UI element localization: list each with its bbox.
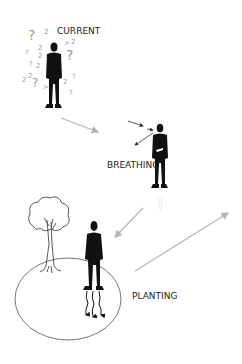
stage-label-breathing: BREATHING bbox=[107, 160, 159, 170]
breath-out-arrow-icon bbox=[135, 133, 153, 145]
svg-text:2: 2 bbox=[71, 38, 75, 46]
svg-text:2: 2 bbox=[44, 28, 48, 36]
svg-text:?: ? bbox=[69, 89, 73, 97]
person-current-icon bbox=[45, 43, 62, 109]
breath-in-arrow-icon bbox=[128, 121, 143, 126]
breath-in-arrow-icon bbox=[147, 129, 153, 130]
svg-text:2: 2 bbox=[63, 78, 67, 86]
svg-text:?: ? bbox=[25, 49, 29, 57]
svg-text:2: 2 bbox=[36, 62, 40, 70]
svg-text:2: 2 bbox=[22, 76, 26, 84]
svg-text:?: ? bbox=[32, 76, 38, 90]
arrow-return bbox=[135, 213, 228, 271]
arrow-to-breathing bbox=[61, 118, 98, 132]
svg-text:>: > bbox=[43, 83, 49, 91]
svg-text:2: 2 bbox=[38, 52, 42, 60]
svg-text:?: ? bbox=[29, 60, 33, 68]
svg-text:?: ? bbox=[72, 73, 76, 81]
arrow-to-planting bbox=[115, 208, 143, 237]
three-stage-diagram: ? 2 ? 2 > 2 ? ? 2 2 2 ? > 2 ? ? 2 bbox=[0, 0, 242, 364]
figure-shadow bbox=[158, 196, 162, 212]
person-planting-icon bbox=[83, 221, 104, 290]
tree-icon bbox=[29, 197, 70, 273]
stage-label-planting: PLANTING bbox=[132, 291, 177, 301]
stage-label-current: CURRENT bbox=[57, 26, 100, 36]
ground-circle bbox=[15, 258, 121, 340]
person-breathing-icon bbox=[151, 124, 168, 188]
svg-text:?: ? bbox=[66, 47, 73, 63]
svg-text:>: > bbox=[64, 39, 70, 47]
svg-text:?: ? bbox=[28, 27, 35, 43]
diagram-canvas: ? 2 ? 2 > 2 ? ? 2 2 2 ? > 2 ? ? 2 bbox=[0, 0, 242, 364]
svg-text:2: 2 bbox=[38, 44, 42, 52]
roots-icon bbox=[86, 291, 102, 317]
